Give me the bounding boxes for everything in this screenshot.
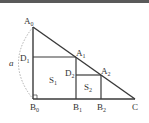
label-A0: A0	[24, 16, 34, 27]
label-B1: B1	[73, 102, 82, 113]
label-C: C	[132, 102, 138, 112]
side-label-a: a	[9, 58, 14, 68]
label-D2: D2	[65, 68, 75, 79]
label-A1: A1	[76, 48, 86, 59]
area-label-S2: S2	[84, 82, 92, 93]
top-border	[0, 0, 149, 3]
label-B0: B0	[30, 102, 39, 113]
label-B2: B2	[97, 102, 106, 113]
geometry-figure: A0 D1 A1 D2 A2 B0 B1 B2 C S1 S2 a	[0, 0, 149, 123]
label-D1: D1	[20, 53, 30, 64]
area-label-S1: S1	[49, 75, 57, 86]
label-A2: A2	[101, 66, 111, 77]
